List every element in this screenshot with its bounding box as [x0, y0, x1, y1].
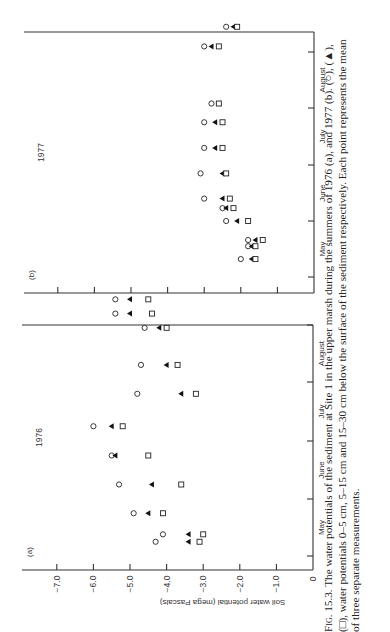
marker-triangle-5-15cm — [149, 482, 154, 488]
marker-triangle-5-15cm — [209, 43, 214, 49]
marker-triangle-5-15cm — [220, 196, 225, 202]
marker-square-15-30cm — [149, 311, 154, 316]
marker-square-15-30cm — [246, 219, 251, 224]
marker-circle-0-5cm — [142, 325, 147, 330]
marker-triangle-5-15cm — [234, 218, 239, 224]
marker-circle-0-5cm — [246, 237, 251, 242]
marker-circle-0-5cm — [135, 391, 140, 396]
marker-circle-0-5cm — [113, 311, 118, 316]
marker-square-15-30cm — [216, 44, 221, 49]
marker-square-15-30cm — [220, 120, 225, 125]
panel-year: 1976 — [34, 428, 44, 447]
value-tick-label: −1.0 — [271, 575, 281, 592]
marker-square-15-30cm — [146, 453, 151, 458]
marker-square-15-30cm — [120, 424, 125, 429]
marker-triangle-5-15cm — [252, 237, 257, 243]
value-axis-title: Soil water potential (mega Pascals) — [160, 598, 286, 607]
marker-circle-0-5cm — [116, 482, 121, 487]
marker-circle-0-5cm — [224, 24, 229, 29]
marker-triangle-5-15cm — [186, 539, 191, 545]
panel-label: (b) — [27, 270, 36, 280]
marker-circle-0-5cm — [209, 101, 214, 106]
marker-triangle-5-15cm — [178, 391, 183, 397]
marker-square-15-30cm — [197, 539, 202, 544]
marker-square-15-30cm — [253, 257, 258, 262]
marker-triangle-5-15cm — [145, 510, 150, 516]
marker-square-15-30cm — [253, 244, 258, 249]
marker-circle-0-5cm — [91, 424, 96, 429]
marker-circle-0-5cm — [202, 44, 207, 49]
value-tick-label: −5.0 — [125, 575, 135, 592]
value-tick-label: −3.0 — [198, 575, 208, 592]
marker-triangle-5-15cm — [109, 423, 114, 429]
marker-square-15-30cm — [224, 171, 229, 176]
figure-caption: Fig. 15.3. The water potentials of the s… — [322, 32, 363, 632]
marker-square-15-30cm — [164, 325, 169, 330]
panel-label: (a) — [25, 547, 34, 557]
marker-square-15-30cm — [179, 482, 184, 487]
marker-circle-0-5cm — [238, 256, 243, 261]
caption-text: The water potentials of the sediment at … — [322, 39, 361, 632]
marker-square-15-30cm — [216, 101, 221, 106]
value-tick-label: −7.0 — [52, 575, 62, 592]
marker-circle-0-5cm — [160, 532, 165, 537]
marker-square-15-30cm — [231, 206, 236, 211]
marker-triangle-5-15cm — [164, 362, 169, 368]
value-tick-label-zero: 0 — [308, 576, 318, 581]
marker-square-15-30cm — [160, 511, 165, 516]
marker-square-15-30cm — [235, 24, 240, 29]
marker-circle-0-5cm — [131, 511, 136, 516]
marker-triangle-5-15cm — [156, 325, 161, 331]
value-tick-label: −4.0 — [162, 575, 172, 592]
marker-triangle-5-15cm — [127, 311, 132, 317]
marker-square-15-30cm — [220, 145, 225, 150]
marker-circle-0-5cm — [202, 145, 207, 150]
caption-figure-label: Fig. 15.3. — [322, 589, 334, 632]
marker-square-15-30cm — [260, 238, 265, 243]
marker-circle-0-5cm — [153, 539, 158, 544]
marker-circle-0-5cm — [202, 120, 207, 125]
marker-triangle-5-15cm — [212, 119, 217, 125]
marker-triangle-5-15cm — [127, 296, 132, 302]
marker-triangle-5-15cm — [186, 531, 191, 537]
marker-square-15-30cm — [227, 196, 232, 201]
marker-triangle-5-15cm — [212, 145, 217, 151]
marker-square-15-30cm — [146, 297, 151, 302]
marker-square-15-30cm — [175, 362, 180, 367]
marker-square-15-30cm — [201, 532, 206, 537]
panel-year: 1977 — [36, 143, 46, 162]
marker-circle-0-5cm — [224, 218, 229, 223]
marker-circle-0-5cm — [198, 171, 203, 176]
marker-circle-0-5cm — [202, 196, 207, 201]
value-tick-label: −6.0 — [88, 575, 98, 592]
marker-circle-0-5cm — [138, 362, 143, 367]
marker-circle-0-5cm — [113, 297, 118, 302]
value-tick-label: −2.0 — [235, 575, 245, 592]
panel-a-1976: −7.0−6.0−5.0−4.0−3.0−2.0−1.00Soil water … — [22, 296, 326, 607]
marker-square-15-30cm — [193, 391, 198, 396]
panel-b-1977: MayJuneJulyAugust(b)1977 — [24, 24, 327, 293]
